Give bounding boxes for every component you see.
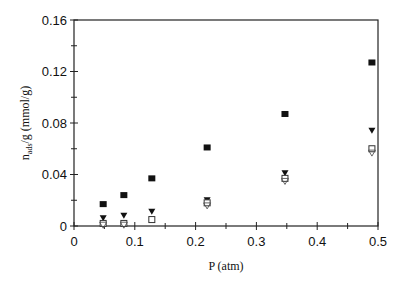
data-point — [148, 175, 155, 181]
data-point — [281, 111, 288, 117]
scatter-chart: 00.10.20.30.40.5 00.040.080.120.16 P (at… — [0, 0, 402, 287]
y-tick-label: 0.12 — [42, 64, 67, 79]
series-open-triangle — [100, 150, 376, 228]
data-point — [100, 201, 107, 207]
x-tick-label: 0.5 — [369, 234, 387, 249]
y-axis-title: nads/g (mmol/g) — [18, 86, 34, 160]
data-point — [368, 128, 375, 134]
plot-border — [74, 20, 378, 226]
x-tick-label: 0.2 — [187, 234, 205, 249]
x-axis-title: P (atm) — [208, 259, 243, 273]
data-point — [121, 220, 127, 226]
x-tick-label: 0.4 — [308, 234, 326, 249]
y-tick-label: 0.08 — [42, 116, 67, 131]
y-tick-label: 0.16 — [42, 13, 67, 28]
data-point — [148, 209, 155, 215]
series-open-square — [100, 146, 375, 227]
data-point — [369, 146, 375, 152]
x-tick-label: 0.1 — [126, 234, 144, 249]
y-axis: 00.040.080.120.16 — [42, 13, 78, 234]
y-tick-label: 0.04 — [42, 167, 67, 182]
data-points — [100, 59, 376, 228]
data-point — [149, 217, 155, 223]
data-point — [120, 213, 127, 219]
data-point — [120, 192, 127, 198]
x-tick-label: 0 — [70, 234, 77, 249]
data-point — [368, 59, 375, 65]
data-point — [204, 144, 211, 150]
y-axis-title-subscript: ads — [25, 144, 34, 155]
y-tick-label: 0 — [60, 219, 67, 234]
series-filled-square — [100, 59, 376, 207]
series-filled-triangle — [100, 128, 376, 222]
plot-frame — [74, 20, 378, 226]
x-tick-label: 0.3 — [247, 234, 265, 249]
data-point — [100, 220, 106, 226]
y-axis-title-rest: /g (mmol/g) — [18, 86, 32, 144]
